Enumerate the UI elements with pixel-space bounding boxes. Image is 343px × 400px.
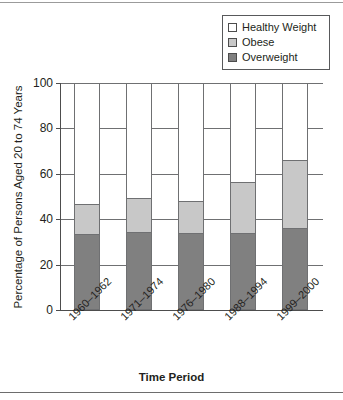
ytick-label-100: 100 [33, 77, 53, 89]
legend-swatch-obese-icon [228, 38, 237, 47]
bottom-divider-rule [0, 392, 343, 393]
bar-1971-1974 [126, 83, 152, 310]
bar-segment-healthy-weight [283, 84, 307, 160]
bar-segment-obese [127, 198, 151, 233]
legend-item-healthy-weight: Healthy Weight [228, 20, 324, 35]
chart-figure: Healthy Weight Obese Overweight Percenta… [0, 0, 343, 400]
bar-segment-healthy-weight [231, 84, 255, 182]
bar-1976-1980 [178, 83, 204, 310]
bar-segment-obese [231, 182, 255, 234]
bar-segment-healthy-weight [179, 84, 203, 201]
bar-1960-1962 [74, 83, 100, 310]
ytick-label-40: 40 [40, 213, 53, 225]
legend-label-overweight: Overweight [242, 51, 298, 64]
bar-segment-obese [283, 160, 307, 229]
ytick-mark-40 [56, 219, 61, 220]
legend-label-healthy-weight: Healthy Weight [242, 21, 316, 34]
bar-segment-obese [75, 204, 99, 234]
y-axis-title: Percentage of Persons Aged 20 to 74 Year… [10, 83, 26, 310]
chart-legend: Healthy Weight Obese Overweight [222, 15, 330, 70]
ytick-label-60: 60 [40, 168, 53, 180]
ytick-mark-80 [56, 128, 61, 129]
legend-label-obese: Obese [242, 36, 274, 49]
ytick-label-0: 0 [46, 304, 53, 316]
y-axis-title-text: Percentage of Persons Aged 20 to 74 Year… [11, 85, 25, 308]
ytick-label-20: 20 [40, 259, 53, 271]
ytick-mark-20 [56, 265, 61, 266]
legend-item-overweight: Overweight [228, 50, 324, 65]
bar-1988-1994 [230, 83, 256, 310]
legend-item-obese: Obese [228, 35, 324, 50]
ytick-mark-60 [56, 174, 61, 175]
bar-segment-obese [179, 201, 203, 234]
bar-segment-healthy-weight [75, 84, 99, 204]
top-divider-rule [0, 2, 343, 3]
legend-swatch-overweight-icon [228, 53, 237, 62]
legend-swatch-healthy-weight-icon [228, 23, 237, 32]
ytick-label-80: 80 [40, 122, 53, 134]
ytick-mark-100 [56, 83, 61, 84]
bar-segment-healthy-weight [127, 84, 151, 198]
ytick-mark-0 [56, 310, 61, 311]
x-axis-title: Time Period [0, 370, 343, 384]
bar-1999-2000 [282, 83, 308, 310]
plot-area: 100 80 60 40 20 0 [60, 83, 323, 311]
